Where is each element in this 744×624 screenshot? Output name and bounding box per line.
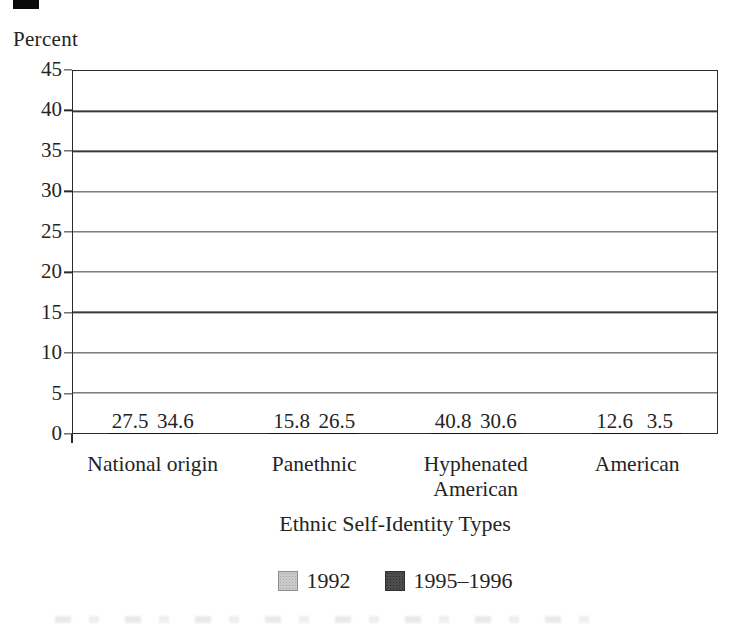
category-label: Panethnic	[234, 452, 396, 477]
y-tick-label: 45	[0, 57, 62, 82]
y-axis-title: Percent	[13, 27, 78, 52]
bar-group: 27.534.6	[72, 70, 234, 434]
bar-column: 12.6	[592, 410, 637, 434]
y-tick-mark	[64, 352, 72, 353]
legend-label: 1995–1996	[414, 568, 513, 594]
y-tick-label: 30	[0, 178, 62, 203]
bar-value-label: 34.6	[157, 410, 194, 432]
bar-group: 40.830.6	[395, 70, 557, 434]
x-axis-tick-stub	[71, 434, 72, 443]
bar-1995–1996	[314, 433, 359, 434]
y-tick-mark	[64, 393, 72, 394]
y-tick-mark	[64, 312, 72, 313]
y-tick-label: 40	[0, 97, 62, 122]
scan-artifact-bar	[13, 0, 39, 9]
bar-value-label: 30.6	[480, 410, 517, 432]
scan-artifact-cutoff-text	[55, 616, 615, 623]
y-axis-labels: 454035302520151050	[0, 70, 62, 434]
bar-group: 15.826.5	[234, 70, 396, 434]
bar-column: 15.8	[269, 410, 314, 434]
y-tick-label: 10	[0, 340, 62, 365]
x-axis-title: Ethnic Self-Identity Types	[72, 511, 718, 537]
legend-item: 1992	[278, 568, 351, 594]
y-tick-label: 25	[0, 219, 62, 244]
y-tick-mark	[64, 191, 72, 192]
category-label: Hyphenated American	[395, 452, 557, 502]
bar-column: 30.6	[476, 410, 521, 434]
bar-value-label: 40.8	[435, 410, 472, 432]
bar-value-label: 27.5	[112, 410, 149, 432]
y-tick-mark	[64, 272, 72, 273]
bar-1995–1996	[153, 433, 198, 434]
category-label: National origin	[72, 452, 234, 477]
bar-column: 3.5	[637, 410, 682, 434]
y-tick-label: 20	[0, 259, 62, 284]
bar-value-label: 3.5	[647, 410, 673, 432]
bar-group: 12.63.5	[557, 70, 719, 434]
y-tick-mark	[64, 110, 72, 111]
y-axis-ticks	[64, 70, 72, 434]
bar-value-label: 12.6	[596, 410, 633, 432]
legend-item: 1995–1996	[385, 568, 513, 594]
bar-1992	[269, 433, 314, 434]
bar-column: 34.6	[153, 410, 198, 434]
legend-swatch	[385, 571, 405, 591]
bar-1992	[592, 433, 637, 434]
y-tick-label: 0	[0, 421, 62, 446]
y-tick-label: 5	[0, 381, 62, 406]
bar-column: 27.5	[108, 410, 153, 434]
category-label: American	[557, 452, 719, 477]
legend: 19921995–1996	[72, 568, 718, 594]
bar-1995–1996	[476, 433, 521, 434]
bar-column: 26.5	[314, 410, 359, 434]
y-tick-mark	[64, 69, 72, 70]
y-tick-mark	[64, 231, 72, 232]
legend-swatch	[278, 571, 298, 591]
bar-value-label: 26.5	[318, 410, 355, 432]
bar-value-label: 15.8	[273, 410, 310, 432]
bar-1995–1996	[637, 433, 682, 434]
scanned-bar-chart-figure: Percent 454035302520151050 27.534.615.82…	[0, 0, 744, 624]
category-axis-labels: National originPanethnicHyphenated Ameri…	[72, 452, 718, 502]
legend-label: 1992	[307, 568, 351, 594]
y-tick-mark	[64, 150, 72, 151]
bar-column: 40.8	[431, 410, 476, 434]
bar-groups: 27.534.615.826.540.830.612.63.5	[72, 70, 718, 434]
y-tick-label: 15	[0, 300, 62, 325]
y-tick-label: 35	[0, 138, 62, 163]
bar-1992	[431, 433, 476, 434]
bar-1992	[108, 433, 153, 434]
